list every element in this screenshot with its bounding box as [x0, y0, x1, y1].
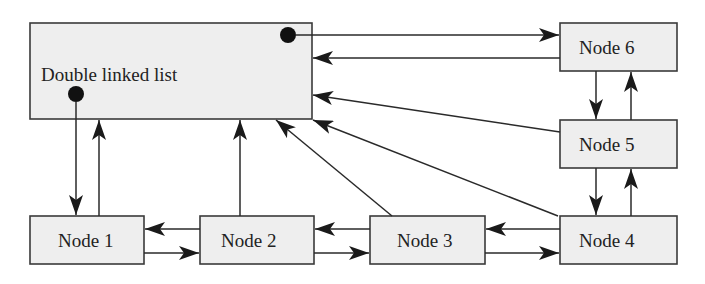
node-3: Node 3: [370, 216, 485, 264]
node-4-label: Node 4: [579, 230, 635, 251]
node-4: Node 4: [560, 216, 677, 264]
linked-list-diagram: Double linked list Node 1 Node 2 Node 3 …: [0, 0, 705, 284]
node-1: Node 1: [30, 216, 144, 264]
node-1-label: Node 1: [58, 230, 113, 251]
node-6: Node 6: [560, 23, 677, 71]
head-pointer-dot: [68, 86, 84, 102]
node-6-label: Node 6: [579, 37, 634, 58]
node-2-label: Node 2: [221, 230, 276, 251]
node-list-label: Double linked list: [41, 64, 178, 85]
node-list: Double linked list: [30, 23, 312, 119]
tail-pointer-dot: [280, 27, 296, 43]
node-3-label: Node 3: [397, 230, 452, 251]
node5-owner-arrow: [313, 95, 560, 132]
node-2: Node 2: [200, 216, 314, 264]
node-5-label: Node 5: [579, 134, 634, 155]
node4-owner-arrow: [313, 120, 558, 216]
node3-owner-arrow: [276, 120, 392, 216]
node-5: Node 5: [560, 120, 677, 168]
